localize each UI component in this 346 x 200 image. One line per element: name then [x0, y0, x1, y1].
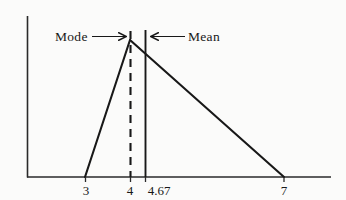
distribution-left-limb: [85, 40, 130, 177]
x-tick-label-7: 7: [281, 184, 288, 197]
plot-canvas: [0, 0, 346, 200]
x-tick-label-4: 4: [127, 184, 134, 197]
x-tick-label-4-67: 4.67: [148, 184, 171, 197]
x-tick-label-3: 3: [83, 184, 90, 197]
mean-label: Mean: [188, 30, 220, 44]
distribution-figure: Number of observations Mode Mean 3 4 4.6…: [0, 0, 346, 200]
distribution-right-limb: [130, 40, 284, 177]
mode-label: Mode: [55, 30, 88, 44]
